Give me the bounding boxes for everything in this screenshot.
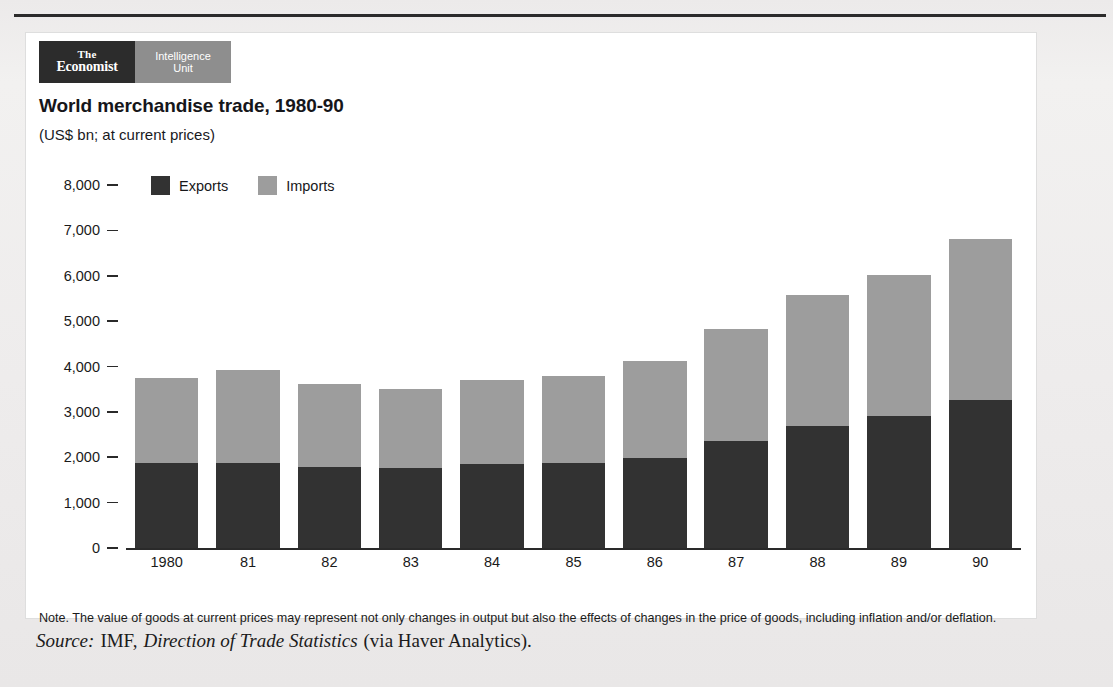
bar-segment-exports[interactable] xyxy=(623,458,686,548)
bar-column[interactable]: 85 xyxy=(533,185,614,548)
bar-segment-exports[interactable] xyxy=(460,464,523,548)
bar-segment-imports[interactable] xyxy=(298,384,361,467)
x-axis-tick-label: 90 xyxy=(972,554,988,570)
y-axis-tick-mark xyxy=(107,366,118,368)
y-axis-ticks: 01,0002,0003,0004,0005,0006,0007,0008,00… xyxy=(34,33,118,618)
y-axis-tick-label: 5,000 xyxy=(64,313,100,329)
x-axis-tick-label: 1980 xyxy=(151,554,183,570)
bar-segment-imports[interactable] xyxy=(867,275,930,417)
x-axis-tick-label: 84 xyxy=(484,554,500,570)
y-axis-tick-mark xyxy=(107,320,118,322)
y-axis-tick-label: 4,000 xyxy=(64,359,100,375)
bar-stack[interactable] xyxy=(298,384,361,548)
bar-segment-exports[interactable] xyxy=(786,426,849,548)
x-axis-tick-label: 82 xyxy=(321,554,337,570)
y-axis-tick: 5,000 xyxy=(64,313,118,329)
chart-note: Note. The value of goods at current pric… xyxy=(39,610,1014,627)
source-publication: Direction of Trade Statistics xyxy=(143,630,357,651)
y-axis-tick-mark xyxy=(107,275,118,277)
y-axis-tick-mark xyxy=(107,502,118,504)
y-axis-tick: 3,000 xyxy=(64,404,118,420)
bar-segment-imports[interactable] xyxy=(704,329,767,441)
bar-column[interactable]: 83 xyxy=(370,185,451,548)
y-axis-tick-label: 0 xyxy=(92,540,100,556)
source-publisher: IMF, xyxy=(100,630,137,651)
source-line: Source:IMF,Direction of Trade Statistics… xyxy=(36,630,532,652)
y-axis-tick: 7,000 xyxy=(64,222,118,238)
y-axis-tick: 8,000 xyxy=(64,177,118,193)
bar-segment-imports[interactable] xyxy=(786,295,849,426)
y-axis-tick-label: 7,000 xyxy=(64,222,100,238)
bar-column[interactable]: 1980 xyxy=(126,185,207,548)
bar-segment-exports[interactable] xyxy=(135,463,198,548)
y-axis-tick-label: 1,000 xyxy=(64,495,100,511)
bar-segment-imports[interactable] xyxy=(379,389,442,468)
y-axis-tick-mark xyxy=(107,411,118,413)
y-axis-tick-label: 8,000 xyxy=(64,177,100,193)
x-axis-tick-label: 88 xyxy=(809,554,825,570)
bar-stack[interactable] xyxy=(786,295,849,548)
bar-column[interactable]: 81 xyxy=(207,185,288,548)
y-axis-tick-mark xyxy=(107,456,118,458)
bar-group: 198081828384858687888990 xyxy=(126,185,1021,548)
y-axis-tick-mark xyxy=(107,230,118,232)
bar-segment-imports[interactable] xyxy=(216,370,279,463)
x-axis-tick-label: 85 xyxy=(565,554,581,570)
bar-segment-exports[interactable] xyxy=(216,463,279,548)
bar-column[interactable]: 89 xyxy=(858,185,939,548)
top-horizontal-rule xyxy=(14,14,1106,17)
bar-stack[interactable] xyxy=(379,389,442,548)
x-axis-tick-label: 89 xyxy=(891,554,907,570)
bar-segment-exports[interactable] xyxy=(704,441,767,548)
y-axis-tick: 2,000 xyxy=(64,449,118,465)
x-axis-tick-label: 83 xyxy=(403,554,419,570)
y-axis-tick: 1,000 xyxy=(64,495,118,511)
source-attribution: (via Haver Analytics). xyxy=(364,630,532,651)
bar-column[interactable]: 90 xyxy=(940,185,1021,548)
x-axis-line xyxy=(126,548,1021,550)
x-axis-tick-label: 86 xyxy=(647,554,663,570)
y-axis-tick-label: 2,000 xyxy=(64,449,100,465)
bar-stack[interactable] xyxy=(135,378,198,548)
y-axis-tick-label: 3,000 xyxy=(64,404,100,420)
bar-stack[interactable] xyxy=(867,275,930,548)
y-axis-tick: 4,000 xyxy=(64,359,118,375)
bar-segment-exports[interactable] xyxy=(542,463,605,548)
bar-segment-imports[interactable] xyxy=(623,361,686,458)
y-axis-tick: 0 xyxy=(92,540,118,556)
bar-stack[interactable] xyxy=(949,239,1012,548)
bar-segment-imports[interactable] xyxy=(135,378,198,463)
bar-segment-imports[interactable] xyxy=(542,376,605,463)
bar-column[interactable]: 87 xyxy=(696,185,777,548)
bar-segment-exports[interactable] xyxy=(949,400,1012,548)
y-axis-tick-mark xyxy=(107,184,118,186)
bar-stack[interactable] xyxy=(542,376,605,548)
bar-column[interactable]: 88 xyxy=(777,185,858,548)
bar-stack[interactable] xyxy=(704,329,767,548)
y-axis-tick-mark xyxy=(107,547,118,549)
bar-column[interactable]: 84 xyxy=(451,185,532,548)
x-axis-tick-label: 87 xyxy=(728,554,744,570)
source-label: Source: xyxy=(36,630,94,651)
bar-segment-exports[interactable] xyxy=(298,467,361,548)
bar-column[interactable]: 86 xyxy=(614,185,695,548)
x-axis-tick-label: 81 xyxy=(240,554,256,570)
bar-column[interactable]: 82 xyxy=(289,185,370,548)
bar-segment-imports[interactable] xyxy=(949,239,1012,400)
bar-segment-exports[interactable] xyxy=(867,416,930,548)
bar-stack[interactable] xyxy=(216,370,279,548)
bar-segment-imports[interactable] xyxy=(460,380,523,464)
bar-segment-exports[interactable] xyxy=(379,468,442,548)
plot-area: 01,0002,0003,0004,0005,0006,0007,0008,00… xyxy=(26,33,1036,618)
y-axis-tick-label: 6,000 xyxy=(64,268,100,284)
bar-stack[interactable] xyxy=(460,380,523,548)
bar-stack[interactable] xyxy=(623,361,686,548)
y-axis-tick: 6,000 xyxy=(64,268,118,284)
chart-card: The Economist Intelligence Unit World me… xyxy=(26,33,1036,618)
